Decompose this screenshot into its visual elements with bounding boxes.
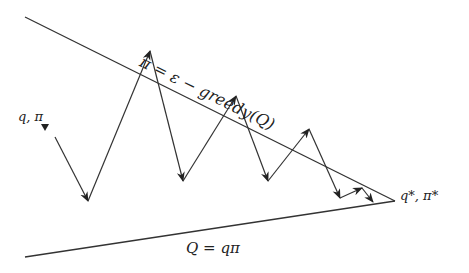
start-arrow-icon [41, 124, 49, 131]
policy-iteration-diagram [0, 0, 469, 273]
value-function-label: Q = qπ [186, 239, 240, 257]
optimal-label: q*, π* [400, 188, 438, 203]
greedy-policy-line [25, 17, 395, 201]
start-label: q, π [18, 109, 43, 124]
zigzag-arrows [55, 51, 373, 202]
